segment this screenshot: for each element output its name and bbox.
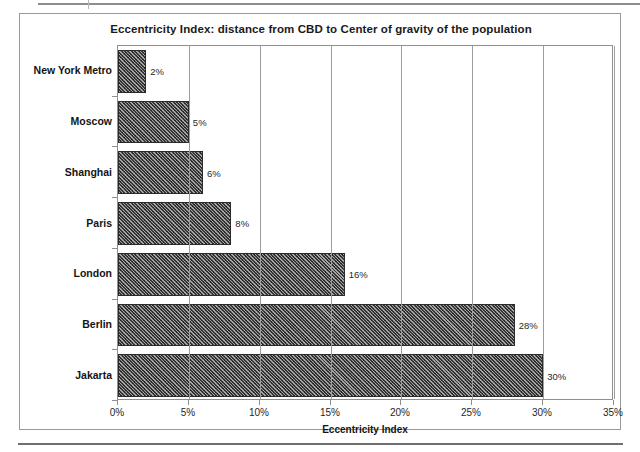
gridline — [614, 46, 615, 399]
y-axis-tick — [112, 400, 117, 401]
y-axis-tick — [112, 197, 117, 198]
x-axis-tick-label: 15% — [320, 407, 340, 418]
x-axis-tick — [188, 400, 189, 405]
gridline — [260, 46, 261, 399]
x-axis-tick-label: 20% — [390, 407, 410, 418]
x-axis-tick-label: 0% — [110, 407, 124, 418]
bar-row: 6% — [118, 151, 612, 194]
y-axis-category-label: Moscow — [71, 115, 112, 127]
page-artifact-bottom-rule — [18, 443, 623, 445]
gridline — [543, 46, 544, 399]
x-axis-tick — [542, 400, 543, 405]
bar-value-label: 16% — [349, 269, 368, 280]
bar[interactable] — [118, 50, 146, 93]
page-artifact-top-tick — [88, 0, 89, 9]
y-axis-tick — [112, 146, 117, 147]
chart-title: Eccentricity Index: distance from CBD to… — [20, 23, 622, 35]
bar-value-label: 8% — [235, 218, 249, 229]
bar[interactable] — [118, 101, 189, 144]
bar-value-label: 2% — [150, 66, 164, 77]
gridline — [472, 46, 473, 399]
x-axis-tick — [471, 400, 472, 405]
y-axis-tick — [112, 248, 117, 249]
x-axis-tick — [330, 400, 331, 405]
bar-value-label: 6% — [207, 167, 221, 178]
x-axis-title: Eccentricity Index — [117, 424, 613, 435]
bar-row: 28% — [118, 304, 612, 347]
y-axis-tick — [112, 96, 117, 97]
bar-row: 30% — [118, 354, 612, 397]
x-axis-tick — [400, 400, 401, 405]
bar-value-label: 28% — [519, 319, 538, 330]
x-axis-tick-label: 35% — [603, 407, 623, 418]
gridline — [401, 46, 402, 399]
y-axis-category-label: Paris — [86, 217, 112, 229]
y-axis-category-label: London — [74, 267, 112, 279]
bar-value-label: 30% — [547, 370, 566, 381]
x-axis-tick-label: 5% — [181, 407, 195, 418]
bar-row: 16% — [118, 253, 612, 296]
x-axis-tick-label: 10% — [249, 407, 269, 418]
x-axis-tick-label: 30% — [532, 407, 552, 418]
x-axis-tick — [259, 400, 260, 405]
y-axis-category-label: Shanghai — [65, 166, 112, 178]
y-axis-category-label: Berlin — [82, 318, 112, 330]
page-artifact-top-rule — [38, 3, 640, 5]
bar[interactable] — [118, 202, 231, 245]
y-axis-tick — [112, 299, 117, 300]
bar-value-label: 5% — [193, 117, 207, 128]
bar[interactable] — [118, 304, 515, 347]
gridline — [189, 46, 190, 399]
x-axis-tick — [613, 400, 614, 405]
x-axis-tick-label: 25% — [461, 407, 481, 418]
bar[interactable] — [118, 151, 203, 194]
bar[interactable] — [118, 253, 345, 296]
gridline — [331, 46, 332, 399]
y-axis-tick — [112, 349, 117, 350]
chart-container: Eccentricity Index: distance from CBD to… — [19, 13, 621, 430]
y-axis-category-label: New York Metro — [34, 64, 112, 76]
bar-row: 5% — [118, 101, 612, 144]
bars-layer: 2%5%6%8%16%28%30% — [118, 46, 612, 399]
bar-row: 2% — [118, 50, 612, 93]
x-axis-tick — [117, 400, 118, 405]
y-axis-category-label: Jakarta — [75, 369, 112, 381]
plot-area: 2%5%6%8%16%28%30% — [117, 45, 613, 400]
y-axis-category-labels: New York MetroMoscowShanghaiParisLondonB… — [28, 45, 112, 400]
bar-row: 8% — [118, 202, 612, 245]
